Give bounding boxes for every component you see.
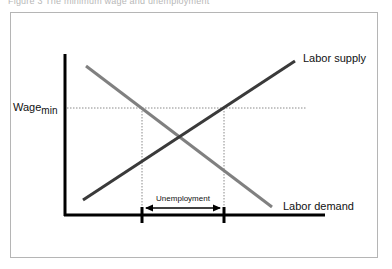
labor-supply-label: Labor supply xyxy=(303,52,366,64)
labor-supply-line xyxy=(83,61,295,200)
labor-demand-label: Labor demand xyxy=(283,200,354,212)
wage-min-main: Wage xyxy=(13,101,41,113)
labor-market-diagram: Unemployment Labor supply Labor demand W… xyxy=(0,0,392,269)
wage-min-subscript: min xyxy=(41,105,57,116)
unemployment-label: Unemployment xyxy=(156,194,211,203)
wage-min-label: Wagemin xyxy=(13,101,57,116)
